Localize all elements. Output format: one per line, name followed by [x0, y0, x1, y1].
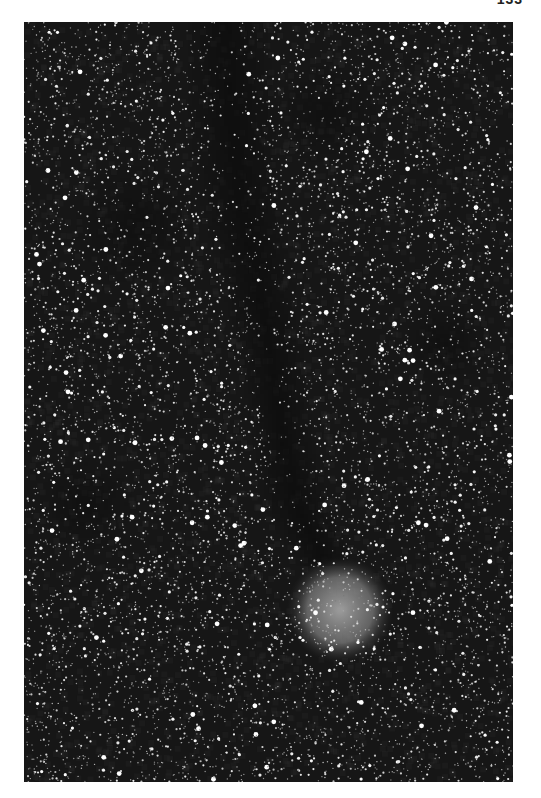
- astrophotograph: [24, 22, 513, 782]
- starfield-canvas: [24, 22, 513, 782]
- page-number: 133: [497, 0, 523, 7]
